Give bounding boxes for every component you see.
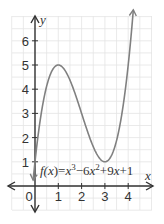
x-tick-label: 4 bbox=[125, 189, 132, 204]
eq-plus-1: +1 bbox=[119, 163, 133, 178]
y-tick-label: 6 bbox=[22, 34, 29, 49]
axes bbox=[8, 16, 153, 212]
y-tick-label: 5 bbox=[22, 58, 29, 73]
function-graph: 01234123456 x y f(x)=x3−6x2+9x+1 bbox=[0, 0, 164, 224]
y-tick-label: 3 bbox=[22, 106, 29, 121]
eq-minus-6: −6 bbox=[76, 163, 90, 178]
tick-labels: 01234123456 bbox=[22, 34, 132, 204]
y-tick-label: 2 bbox=[22, 131, 29, 146]
y-axis-label: y bbox=[38, 12, 46, 27]
eq-plus-9: +9 bbox=[100, 163, 114, 178]
function-curve bbox=[33, 10, 133, 180]
y-tick-label: 4 bbox=[22, 82, 29, 97]
x-tick-label: 3 bbox=[101, 189, 108, 204]
x-tick-label: 0 bbox=[25, 189, 32, 204]
x-axis-label: x bbox=[144, 168, 151, 183]
function-equation: f(x)=x3−6x2+9x+1 bbox=[40, 162, 133, 178]
y-tick-label: 1 bbox=[22, 155, 29, 170]
x-tick-label: 2 bbox=[78, 189, 85, 204]
x-tick-label: 1 bbox=[55, 189, 62, 204]
eq-equals: )= bbox=[54, 163, 66, 178]
